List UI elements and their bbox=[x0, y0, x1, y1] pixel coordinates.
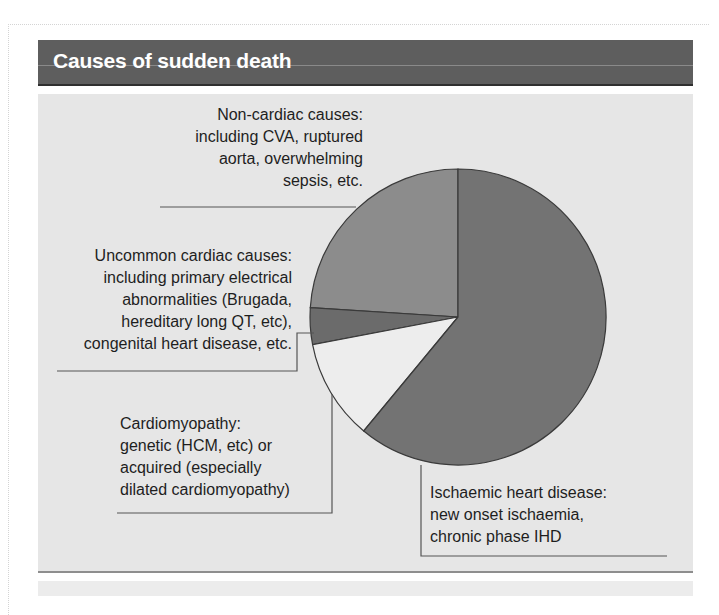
label-line: new onset ischaemia, bbox=[430, 504, 607, 526]
label-line: congenital heart disease, etc. bbox=[84, 333, 292, 355]
label-non-cardiac: Non-cardiac causes: including CVA, ruptu… bbox=[195, 104, 363, 192]
label-line: including primary electrical bbox=[84, 267, 292, 289]
label-line: genetic (HCM, etc) or bbox=[120, 435, 290, 457]
label-line: acquired (especially bbox=[120, 457, 290, 479]
label-line: sepsis, etc. bbox=[195, 170, 363, 192]
label-line: dilated cardiomyopathy) bbox=[120, 479, 290, 501]
label-line: aorta, overwhelming bbox=[195, 148, 363, 170]
label-line: Cardiomyopathy: bbox=[120, 413, 290, 435]
label-uncommon-cardiac: Uncommon cardiac causes: including prima… bbox=[84, 245, 292, 355]
label-line: Ischaemic heart disease: bbox=[430, 482, 607, 504]
label-line: including CVA, ruptured bbox=[195, 126, 363, 148]
label-line: Uncommon cardiac causes: bbox=[84, 245, 292, 267]
label-cardiomyopathy: Cardiomyopathy: genetic (HCM, etc) or ac… bbox=[120, 413, 290, 501]
label-line: Non-cardiac causes: bbox=[195, 104, 363, 126]
label-ischaemic: Ischaemic heart disease: new onset ischa… bbox=[430, 482, 607, 548]
label-line: hereditary long QT, etc), bbox=[84, 311, 292, 333]
label-line: abnormalities (Brugada, bbox=[84, 289, 292, 311]
label-line: chronic phase IHD bbox=[430, 526, 607, 548]
pie-slices bbox=[310, 169, 606, 465]
